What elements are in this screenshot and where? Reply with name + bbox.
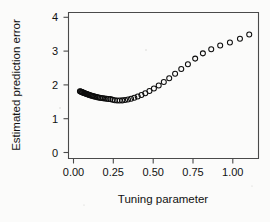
x-tick-label-0-25: 0.25 bbox=[103, 166, 124, 178]
plot-background bbox=[0, 0, 270, 222]
chart-figure: 0 1 2 3 4 Estimated prediction error 0.0… bbox=[0, 0, 270, 222]
x-tick-label-1-00: 1.00 bbox=[222, 166, 243, 178]
y-tick-label-3: 3 bbox=[52, 45, 58, 57]
y-tick-label-4: 4 bbox=[52, 11, 58, 23]
y-tick-label-1: 1 bbox=[52, 113, 58, 125]
y-tick-label-2: 2 bbox=[52, 79, 58, 91]
y-axis-title: Estimated prediction error bbox=[10, 19, 22, 151]
y-tick-label-0: 0 bbox=[52, 147, 58, 159]
prediction-error-scatter-plot: 0 1 2 3 4 Estimated prediction error 0.0… bbox=[0, 0, 270, 222]
x-tick-label-0-00: 0.00 bbox=[63, 166, 84, 178]
x-tick-label-0-75: 0.75 bbox=[182, 166, 203, 178]
x-axis-title: Tuning parameter bbox=[118, 193, 209, 205]
x-tick-label-0-50: 0.50 bbox=[142, 166, 163, 178]
